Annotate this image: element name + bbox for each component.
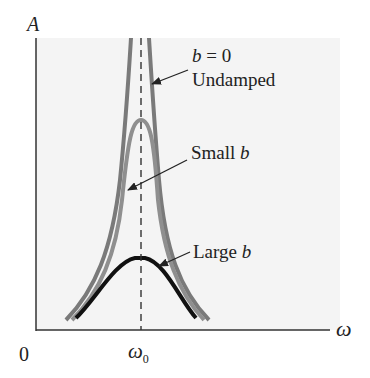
small-b-word: Small (191, 142, 240, 163)
undamped-annotation-eq: b = 0 (192, 46, 231, 65)
resonance-chart: A ω 0 ω0 b = 0 Undamped Small b Large b (0, 0, 370, 378)
small-b-annotation: Small b (191, 143, 250, 162)
small-b-symbol: b (240, 142, 250, 163)
large-b-annotation: Large b (193, 242, 251, 261)
x-axis-label: ω (336, 318, 352, 340)
undamped-eq-text: = 0 (202, 45, 232, 66)
omega0-subscript: 0 (143, 352, 149, 366)
y-axis-label: A (27, 14, 39, 34)
chart-canvas (0, 0, 370, 378)
omega0-symbol: ω (128, 339, 143, 363)
undamped-annotation-word: Undamped (192, 70, 275, 89)
undamped-b-symbol: b (192, 45, 202, 66)
large-b-symbol: b (242, 241, 252, 262)
origin-label: 0 (19, 344, 29, 364)
large-b-word: Large (193, 241, 242, 262)
omega0-tick-label: ω0 (128, 341, 149, 362)
plot-area (36, 38, 340, 330)
